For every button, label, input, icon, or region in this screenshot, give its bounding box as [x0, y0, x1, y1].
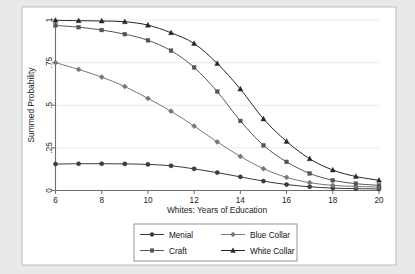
x-tick-label: 8 — [99, 196, 104, 205]
y-tick-label: 1 — [45, 17, 54, 22]
marker-square — [285, 160, 289, 164]
marker-circle — [77, 162, 81, 166]
y-tick-label: .75 — [45, 56, 54, 68]
y-tick-label: 0 — [45, 188, 54, 193]
marker-square — [169, 49, 173, 53]
marker-square — [100, 28, 104, 32]
marker-square — [150, 249, 154, 253]
marker-square — [308, 172, 312, 176]
marker-circle — [146, 162, 150, 166]
marker-circle — [123, 162, 127, 166]
marker-square — [123, 32, 127, 36]
legend-label: Blue Collar — [250, 231, 290, 240]
marker-square — [238, 119, 242, 123]
marker-square — [331, 178, 335, 182]
marker-circle — [150, 233, 154, 237]
marker-circle — [284, 182, 288, 186]
marker-square — [77, 25, 81, 29]
marker-square — [377, 183, 381, 187]
x-tick-label: 12 — [190, 196, 200, 205]
marker-circle — [192, 167, 196, 171]
marker-circle — [261, 179, 265, 183]
marker-circle — [100, 162, 104, 166]
x-tick-label: 14 — [236, 196, 246, 205]
legend-label: Menial — [169, 231, 193, 240]
x-tick-label: 10 — [143, 196, 153, 205]
marker-circle — [215, 171, 219, 175]
chart-legend: MenialBlue CollarCraftWhite Collar — [134, 224, 297, 261]
marker-square — [262, 143, 266, 147]
summed-probability-chart: 0.25.5.751 68101214161820 Summed Probabi… — [0, 0, 415, 274]
marker-circle — [238, 175, 242, 179]
marker-square — [354, 182, 358, 186]
y-tick-label: .5 — [45, 101, 54, 108]
legend-label: White Collar — [250, 247, 295, 256]
x-axis-title: Whites: Years of Education — [167, 205, 267, 215]
marker-circle — [169, 164, 173, 168]
x-tick-label: 6 — [53, 196, 58, 205]
marker-square — [146, 38, 150, 42]
x-tick-label: 20 — [374, 196, 384, 205]
y-axis-title: Summed Probability — [26, 67, 36, 143]
marker-square — [192, 66, 196, 70]
marker-square — [215, 90, 219, 94]
marker-circle — [53, 162, 57, 166]
marker-square — [54, 24, 58, 28]
x-tick-label: 18 — [328, 196, 338, 205]
x-tick-label: 16 — [282, 196, 292, 205]
legend-label: Craft — [169, 247, 187, 256]
y-tick-label: .25 — [45, 142, 54, 154]
